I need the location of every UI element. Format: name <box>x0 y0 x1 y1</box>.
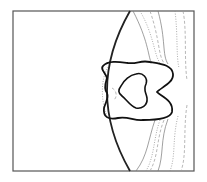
contour-plot <box>0 0 207 182</box>
plot-frame <box>13 11 194 171</box>
